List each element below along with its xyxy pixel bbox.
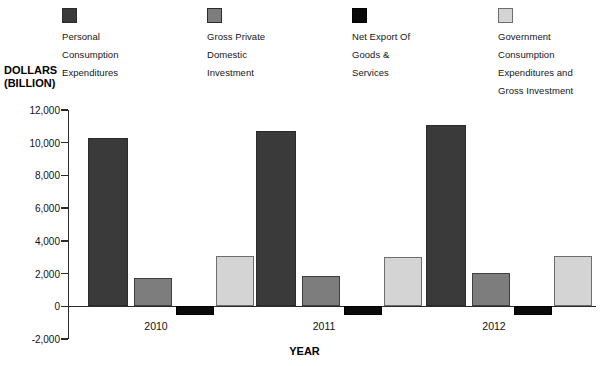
chart-title <box>0 0 609 2</box>
bar <box>176 306 214 314</box>
bar <box>472 273 510 307</box>
y-axis-title: DOLLARS (BILLION) <box>4 64 57 90</box>
y-axis-tick <box>61 306 68 307</box>
legend-item-government-consumption-expenditures[interactable]: Government Consumption Expenditures and … <box>498 8 609 98</box>
legend-label-net-export-of-goods-and-services: Net Export Of Goods & Services <box>352 31 410 78</box>
legend-label-personal-consumption-expenditures: Personal Consumption Expenditures <box>62 31 119 78</box>
legend-item-net-export-of-goods-and-services[interactable]: Net Export Of Goods & Services <box>352 8 462 80</box>
bar <box>216 256 254 306</box>
bar <box>554 256 592 307</box>
y-axis-tick-label: 10,000 <box>29 137 60 148</box>
y-axis-tick <box>61 142 68 143</box>
x-axis-tick-label: 2012 <box>482 320 505 332</box>
bar <box>256 131 296 306</box>
x-axis-tick-label: 2010 <box>144 320 167 332</box>
bar <box>134 278 172 307</box>
y-axis-tick <box>61 273 68 274</box>
legend-swatch-personal-consumption-expenditures <box>62 8 77 23</box>
legend-label-gross-private-domestic-investment: Gross Private Domestic Investment <box>207 31 265 78</box>
y-axis-tick <box>61 240 68 241</box>
legend-swatch-net-export-of-goods-and-services <box>352 8 367 23</box>
plot-area: 12,00010,0008,0006,0004,0002,0000-2,000 … <box>68 110 596 339</box>
bar <box>302 276 340 306</box>
chart-legend: Personal Consumption Expenditures Gross … <box>0 8 609 74</box>
y-axis-tick-label: 0 <box>54 301 60 312</box>
y-axis-tick <box>61 338 68 339</box>
y-axis-tick-label: 4,000 <box>35 235 60 246</box>
bar <box>88 138 128 306</box>
bar <box>344 306 382 315</box>
y-axis-tick-label: 8,000 <box>35 170 60 181</box>
y-axis-tick <box>61 175 68 176</box>
x-axis-tick-label: 2011 <box>313 320 336 332</box>
legend-label-government-consumption-expenditures: Government Consumption Expenditures and … <box>498 31 573 96</box>
x-axis-title: YEAR <box>0 345 609 357</box>
y-axis-tick <box>61 109 68 110</box>
legend-item-gross-private-domestic-investment[interactable]: Gross Private Domestic Investment <box>207 8 327 80</box>
y-axis-tick-label: 2,000 <box>35 268 60 279</box>
y-axis-tick-label: -2,000 <box>32 334 60 345</box>
legend-swatch-gross-private-domestic-investment <box>207 8 222 23</box>
chart-page: Personal Consumption Expenditures Gross … <box>0 0 609 366</box>
y-axis-tick <box>61 207 68 208</box>
bar <box>384 257 422 307</box>
bar <box>426 125 466 307</box>
bar <box>514 306 552 315</box>
y-axis-tick-label: 6,000 <box>35 203 60 214</box>
legend-item-personal-consumption-expenditures[interactable]: Personal Consumption Expenditures <box>62 8 182 80</box>
y-axis-tick-label: 12,000 <box>29 105 60 116</box>
legend-swatch-government-consumption-expenditures <box>498 8 513 23</box>
